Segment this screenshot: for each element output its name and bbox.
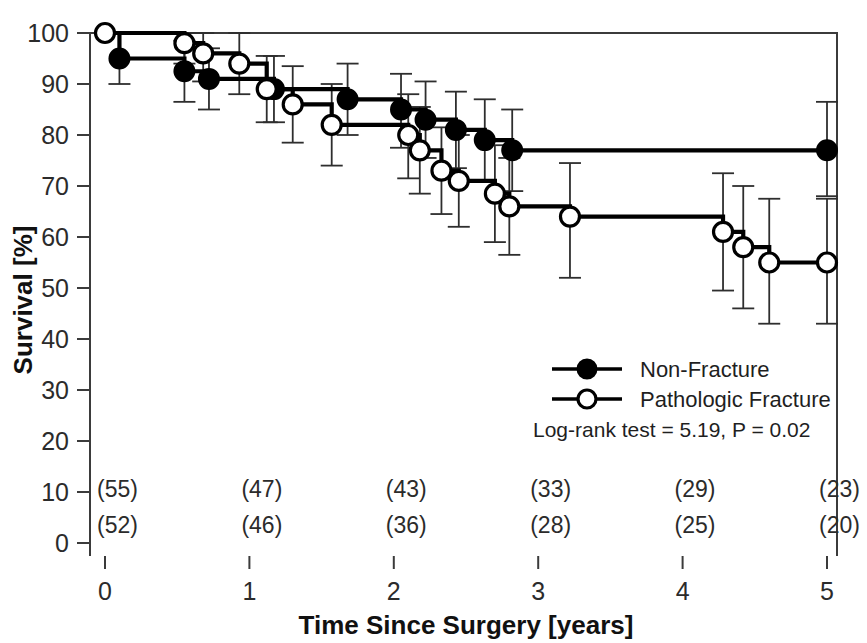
survival-chart-figure: 0102030405060708090100 012345 (55)(47)(4… bbox=[0, 0, 867, 643]
data-point-open bbox=[194, 44, 213, 63]
data-point-open bbox=[560, 207, 579, 226]
plot-frame bbox=[90, 33, 837, 556]
y-tick-label: 70 bbox=[41, 172, 69, 200]
data-point-open bbox=[432, 161, 451, 180]
at-risk-table: (55)(47)(43)(33)(29)(23)(52)(46)(36)(28)… bbox=[97, 476, 860, 538]
y-tick-label: 40 bbox=[41, 325, 69, 353]
at-risk-value: (55) bbox=[97, 476, 138, 502]
data-point-filled bbox=[475, 130, 495, 150]
data-point-open bbox=[96, 24, 115, 43]
data-point-filled bbox=[391, 100, 411, 120]
data-point-open bbox=[818, 253, 837, 272]
at-risk-value: (23) bbox=[819, 476, 860, 502]
data-point-filled bbox=[416, 110, 436, 130]
kaplan-meier-plot: 0102030405060708090100 012345 (55)(47)(4… bbox=[0, 0, 867, 643]
data-point-filled bbox=[817, 140, 837, 160]
at-risk-value: (20) bbox=[819, 512, 860, 538]
legend-marker-open bbox=[578, 390, 596, 408]
axis-frame bbox=[90, 33, 837, 556]
data-point-open bbox=[175, 34, 194, 53]
data-point-open bbox=[410, 141, 429, 160]
logrank-annotation: Log-rank test = 5.19, P = 0.02 bbox=[533, 418, 810, 441]
series-markers bbox=[96, 24, 838, 273]
legend-marker-filled bbox=[578, 360, 597, 379]
data-point-open bbox=[230, 54, 249, 73]
data-point-open bbox=[257, 80, 276, 99]
data-point-open bbox=[283, 95, 302, 114]
at-risk-value: (28) bbox=[530, 512, 571, 538]
data-point-filled bbox=[338, 89, 358, 109]
at-risk-value: (43) bbox=[386, 476, 427, 502]
at-risk-value: (47) bbox=[241, 476, 282, 502]
y-tick-label: 10 bbox=[41, 478, 69, 506]
data-point-filled bbox=[199, 69, 219, 89]
x-axis-title: Time Since Surgery [years] bbox=[299, 610, 634, 640]
y-tick-label: 30 bbox=[41, 376, 69, 404]
legend-label: Non-Fracture bbox=[640, 357, 770, 382]
x-tick-label: 5 bbox=[820, 577, 834, 605]
data-point-open bbox=[760, 253, 779, 272]
at-risk-value: (52) bbox=[97, 512, 138, 538]
data-point-filled bbox=[174, 61, 194, 81]
data-point-open bbox=[322, 115, 341, 134]
at-risk-value: (36) bbox=[386, 512, 427, 538]
x-tick-label: 0 bbox=[98, 577, 112, 605]
data-point-open bbox=[714, 222, 733, 241]
data-point-open bbox=[500, 197, 519, 216]
data-point-filled bbox=[502, 140, 522, 160]
y-tick-label: 80 bbox=[41, 121, 69, 149]
at-risk-value: (33) bbox=[530, 476, 571, 502]
x-tick-label: 3 bbox=[531, 577, 545, 605]
y-tick-label: 50 bbox=[41, 274, 69, 302]
y-tick-label: 0 bbox=[55, 529, 69, 557]
at-risk-value: (25) bbox=[675, 512, 716, 538]
y-tick-label: 20 bbox=[41, 427, 69, 455]
y-tick-label: 90 bbox=[41, 70, 69, 98]
data-point-open bbox=[449, 171, 468, 190]
x-tick-label: 2 bbox=[387, 577, 401, 605]
data-point-filled bbox=[446, 120, 466, 140]
y-axis-title: Survival [%] bbox=[8, 226, 38, 375]
at-risk-value: (29) bbox=[675, 476, 716, 502]
data-point-open bbox=[734, 238, 753, 257]
legend-label: Pathologic Fracture bbox=[640, 387, 831, 412]
y-tick-label: 60 bbox=[41, 223, 69, 251]
data-point-filled bbox=[109, 49, 129, 69]
at-risk-value: (46) bbox=[241, 512, 282, 538]
chart-legend: Non-FracturePathologic FractureLog-rank … bbox=[533, 357, 831, 441]
x-tick-label: 4 bbox=[676, 577, 690, 605]
x-tick-label: 1 bbox=[242, 577, 256, 605]
x-axis-ticks: 012345 bbox=[98, 556, 834, 605]
y-tick-label: 100 bbox=[27, 19, 69, 47]
